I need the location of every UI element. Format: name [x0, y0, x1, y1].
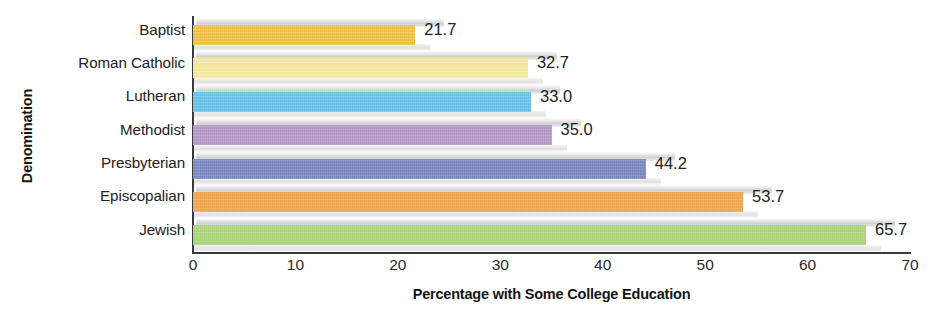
category-label-methodist: Methodist	[20, 122, 185, 137]
plot-area: 21.7 32.7 33.0 35.0 44.2	[193, 18, 910, 252]
bar-texture-4	[193, 159, 646, 179]
x-axis-title: Percentage with Some College Education	[193, 286, 910, 302]
category-label-baptist: Baptist	[20, 22, 185, 37]
x-tick-40: 40	[594, 256, 611, 274]
x-tick-60: 60	[799, 256, 816, 274]
bar-value-lutheran: 33.0	[540, 87, 572, 106]
x-tick-30: 30	[492, 256, 509, 274]
x-tick-50: 50	[697, 256, 714, 274]
bar-presbyterian[interactable]	[193, 159, 646, 179]
bar-value-baptist: 21.7	[424, 20, 456, 39]
bar-texture-1	[193, 58, 528, 78]
category-label-roman-catholic: Roman Catholic	[20, 55, 185, 70]
bar-chart: Denomination Baptist Roman Catholic Luth…	[0, 0, 947, 323]
bar-baseline-shadow-0	[194, 44, 430, 51]
x-tick-70: 70	[901, 256, 918, 274]
bar-value-jewish: 65.7	[875, 220, 907, 239]
bar-jewish[interactable]	[193, 225, 866, 245]
category-label-jewish: Jewish	[20, 222, 185, 237]
category-label-presbyterian: Presbyterian	[20, 155, 185, 170]
bar-texture-3	[193, 125, 552, 145]
bar-texture-0	[193, 25, 415, 45]
category-label-episcopalian: Episcopalian	[20, 188, 185, 203]
bar-baseline-shadow-4	[194, 178, 661, 185]
bar-episcopalian[interactable]	[193, 192, 743, 212]
x-tick-20: 20	[389, 256, 406, 274]
bar-baptist[interactable]	[193, 25, 415, 45]
x-axis-ticks: 0 10 20 30 40 50 60 70	[193, 256, 910, 280]
bar-texture-6	[193, 225, 866, 245]
bar-lutheran[interactable]	[193, 92, 531, 112]
x-axis-line	[192, 252, 911, 254]
x-tick-10: 10	[287, 256, 304, 274]
category-axis-labels: Baptist Roman Catholic Lutheran Methodis…	[20, 18, 185, 252]
bar-baseline-shadow-2	[194, 111, 546, 118]
bar-baseline-shadow-5	[194, 211, 758, 218]
x-tick-0: 0	[189, 256, 198, 274]
bar-value-methodist: 35.0	[561, 120, 593, 139]
bar-texture-2	[193, 92, 531, 112]
bar-baseline-shadow-1	[194, 78, 543, 85]
category-label-lutheran: Lutheran	[20, 88, 185, 103]
bar-value-roman-catholic: 32.7	[537, 53, 569, 72]
bar-baseline-shadow-6	[194, 245, 881, 252]
bar-value-episcopalian: 53.7	[752, 187, 784, 206]
bar-value-presbyterian: 44.2	[655, 154, 687, 173]
bar-roman-catholic[interactable]	[193, 58, 528, 78]
bar-methodist[interactable]	[193, 125, 552, 145]
bar-texture-5	[193, 192, 743, 212]
bar-baseline-shadow-3	[194, 145, 567, 152]
